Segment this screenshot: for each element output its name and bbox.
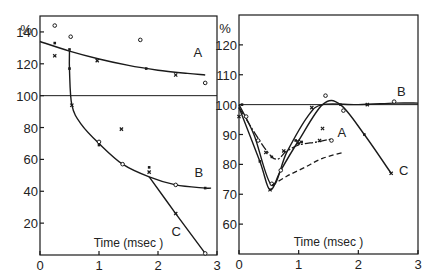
y-axis-label: %	[20, 22, 32, 37]
x-tick-label: 0	[36, 258, 43, 273]
x-tick-label: 2	[154, 258, 161, 273]
x-tick-label: 2	[355, 257, 362, 272]
figure: 20406080100120140%0123Time (msec )ABC 60…	[0, 0, 434, 275]
data-point-circle	[203, 252, 207, 256]
data-point-circle	[203, 81, 207, 85]
data-point-circle	[279, 169, 283, 173]
y-tick-label: 80	[24, 121, 38, 136]
data-point-cross	[174, 73, 177, 76]
data-point-circle	[69, 35, 73, 39]
curve-label-c: C	[172, 224, 181, 239]
curve-label-c: C	[399, 163, 408, 178]
chart-canvas: 20406080100120140%0123Time (msec )ABC 60…	[0, 0, 434, 275]
curve-label-b: B	[195, 165, 204, 180]
plot-frame	[40, 16, 217, 255]
series-a	[40, 24, 207, 85]
data-point-dot	[241, 103, 244, 106]
data-point-circle	[324, 94, 328, 98]
data-point-dot	[148, 166, 151, 169]
y-tick-label: 80	[223, 157, 237, 172]
curve-dashed	[272, 152, 344, 185]
y-tick-label: 40	[24, 184, 38, 199]
y-tick-label: 60	[223, 217, 237, 232]
series-dashed	[272, 152, 344, 185]
data-point-dot	[145, 67, 148, 70]
data-point-cross	[282, 149, 285, 152]
y-tick-label: 20	[24, 216, 38, 231]
data-point-circle	[392, 100, 396, 104]
series-c	[237, 100, 392, 191]
y-tick-label: 60	[24, 152, 38, 167]
y-axis-label: %	[219, 21, 231, 36]
curve-label-a: A	[193, 45, 202, 60]
data-point-dot	[300, 141, 303, 144]
x-tick-label: 0	[235, 257, 242, 272]
y-tick-label: 120	[215, 38, 237, 53]
data-point-dot	[204, 187, 207, 190]
left-chart-panel: 20406080100120140%0123Time (msec )ABC	[16, 16, 220, 273]
data-point-dot	[98, 144, 101, 147]
y-tick-label: 110	[216, 68, 237, 83]
x-tick-label: 1	[95, 258, 102, 273]
x-tick-label: 3	[213, 258, 220, 273]
curve-a	[40, 42, 205, 76]
curve-label-a: A	[337, 125, 346, 140]
plot-frame	[239, 15, 418, 254]
data-point-dot	[271, 156, 274, 159]
data-point-cross	[310, 106, 313, 109]
data-point-cross	[120, 128, 123, 131]
x-axis-label: Time (msec )	[294, 235, 364, 249]
data-point-dot	[68, 48, 71, 51]
data-point-cross	[321, 127, 324, 130]
data-point-circle	[174, 183, 178, 187]
curve-label-b: B	[397, 84, 406, 99]
y-tick-label: 100	[16, 89, 38, 104]
data-point-circle	[330, 139, 334, 143]
data-point-circle	[342, 109, 346, 113]
data-point-cross	[148, 171, 151, 174]
y-tick-label: 90	[223, 128, 237, 143]
data-point-circle	[97, 140, 101, 144]
data-point-dot	[294, 139, 297, 142]
data-point-dot	[53, 42, 56, 45]
y-tick-label: 120	[16, 57, 38, 72]
series-b	[239, 94, 418, 186]
series-b	[68, 51, 211, 189]
data-point-circle	[244, 115, 248, 119]
data-point-dot	[259, 160, 262, 163]
x-tick-label: 3	[414, 257, 421, 272]
x-tick-label: 1	[295, 257, 302, 272]
y-tick-label: 70	[223, 187, 237, 202]
data-point-cross	[96, 59, 99, 62]
data-point-dot	[363, 133, 366, 136]
curve-c	[239, 100, 391, 189]
data-point-circle	[53, 24, 57, 28]
right-chart-panel: 60708090100110120%0123Time (msec )ABC	[215, 15, 421, 272]
y-tick-label: 100	[215, 98, 237, 113]
data-point-cross	[264, 151, 267, 154]
x-axis-label: Time (msec )	[94, 236, 164, 250]
data-point-cross	[53, 54, 56, 57]
curve-b	[69, 51, 211, 188]
data-point-circle	[139, 38, 143, 42]
data-point-circle	[121, 162, 125, 166]
data-point-dot	[68, 67, 71, 70]
